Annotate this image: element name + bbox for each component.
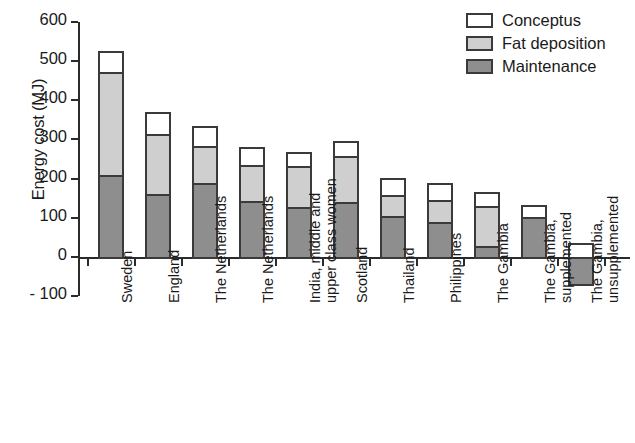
legend-label: Conceptus xyxy=(502,11,581,30)
bar-segment-conceptus xyxy=(145,112,171,136)
bar-segment-conceptus xyxy=(98,51,124,73)
legend-item-conceptus: Conceptus xyxy=(466,9,606,31)
category-label: England xyxy=(166,250,182,303)
y-tick-label: 500 xyxy=(7,49,67,68)
category-label: Thailand xyxy=(401,247,417,303)
bar-segment-fat xyxy=(380,195,406,217)
bar-segment-maintenance xyxy=(98,175,124,259)
y-tick-3: 300 xyxy=(71,138,78,140)
y-tick-label: 200 xyxy=(7,167,67,186)
y-tick-label: - 100 xyxy=(7,284,67,303)
bar-segment-fat xyxy=(427,200,453,224)
y-tick-1: 500 xyxy=(71,60,78,62)
category-label: Sweden xyxy=(119,251,135,303)
y-tick-label: 0 xyxy=(7,245,67,264)
bar-segment-conceptus xyxy=(239,147,265,167)
y-tick-6: 0 xyxy=(71,256,78,258)
chart-legend: ConceptusFat depositionMaintenance xyxy=(466,9,606,78)
bar-segment-fat xyxy=(145,134,171,197)
legend-item-fat: Fat deposition xyxy=(466,32,606,54)
energy-cost-stacked-bar-chart: Energy cost (MJ) 6005004003002001000- 10… xyxy=(0,0,635,443)
y-tick-label: 300 xyxy=(7,127,67,146)
bar-segment-conceptus xyxy=(474,192,500,208)
category-label: Philippines xyxy=(448,233,464,303)
y-tick-7: - 100 xyxy=(71,295,78,297)
y-tick-5: 100 xyxy=(71,217,78,219)
bar-segment-fat xyxy=(98,72,124,177)
y-tick-label: 100 xyxy=(7,206,67,225)
bar-segment-conceptus xyxy=(192,126,218,148)
bar-segment-conceptus xyxy=(380,178,406,198)
category-label: The Netherlands xyxy=(213,196,229,303)
bar-segment-conceptus xyxy=(333,141,359,157)
y-tick-4: 200 xyxy=(71,178,78,180)
legend-item-maintenance: Maintenance xyxy=(466,55,606,77)
category-label: Scotland xyxy=(354,247,370,303)
y-tick-2: 400 xyxy=(71,99,78,101)
category-label: The Gambia, supplemented xyxy=(542,212,574,303)
legend-swatch-fat-icon xyxy=(466,36,493,51)
category-label: The Netherlands xyxy=(260,196,276,303)
legend-label: Fat deposition xyxy=(502,34,606,53)
y-tick-label: 600 xyxy=(7,10,67,29)
bar-segment-fat xyxy=(192,146,218,185)
category-label: India, middle and upper class women xyxy=(307,178,339,303)
y-tick-label: 400 xyxy=(7,88,67,107)
legend-swatch-conceptus-icon xyxy=(466,13,493,28)
bar-segment-conceptus xyxy=(286,152,312,169)
bar-segment-conceptus xyxy=(427,183,453,202)
y-axis-line xyxy=(78,22,80,296)
y-tick-0: 600 xyxy=(71,21,78,23)
legend-swatch-maintenance-icon xyxy=(466,59,493,74)
category-label: The Gambia xyxy=(495,223,511,303)
x-tick-0 xyxy=(87,259,89,266)
category-label: The Gambia, unsupplemented xyxy=(589,196,621,303)
legend-label: Maintenance xyxy=(502,57,596,76)
